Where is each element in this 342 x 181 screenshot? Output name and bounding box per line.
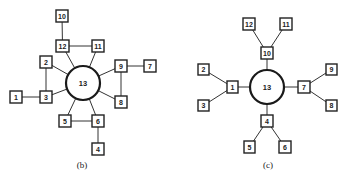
diagram-caption: (c) <box>263 160 273 170</box>
node-label: 8 <box>330 102 334 109</box>
node-label: 3 <box>44 94 48 101</box>
node-label: 11 <box>282 21 290 28</box>
diagram-b: 13101211297138564(b) <box>10 10 156 170</box>
node-7: 7 <box>298 81 310 93</box>
node-5: 5 <box>244 141 255 153</box>
node-label: 1 <box>14 94 18 101</box>
node-6: 6 <box>279 141 291 153</box>
node-label: 6 <box>283 144 287 151</box>
node-10: 10 <box>261 47 273 59</box>
node-label: 7 <box>302 84 306 91</box>
node-label: 12 <box>245 21 253 28</box>
node-8: 8 <box>115 96 127 108</box>
node-11: 11 <box>92 40 104 52</box>
node-label: 9 <box>330 66 334 73</box>
node-label: 2 <box>202 66 206 73</box>
hub-label: 13 <box>263 83 271 92</box>
node-label: 5 <box>248 144 252 151</box>
node-12: 12 <box>243 18 255 30</box>
node-3: 3 <box>198 100 209 111</box>
node-1: 1 <box>227 81 238 93</box>
node-7: 7 <box>144 60 156 72</box>
node-9: 9 <box>326 64 337 75</box>
node-3: 3 <box>40 91 52 103</box>
node-label: 6 <box>96 118 100 125</box>
node-label: 12 <box>59 43 67 50</box>
node-label: 10 <box>58 13 66 20</box>
hub-node: 13 <box>66 66 100 100</box>
node-1: 1 <box>10 91 22 103</box>
node-10: 10 <box>56 10 68 22</box>
node-5: 5 <box>59 115 71 127</box>
node-label: 1 <box>231 84 235 91</box>
hub-label: 13 <box>79 79 87 88</box>
node-9: 9 <box>115 60 127 72</box>
node-label: 4 <box>265 118 269 125</box>
node-4: 4 <box>92 143 104 155</box>
node-2: 2 <box>198 64 209 75</box>
node-11: 11 <box>280 18 292 30</box>
node-label: 9 <box>119 63 123 70</box>
node-6: 6 <box>92 115 104 127</box>
node-label: 11 <box>94 43 102 50</box>
node-label: 5 <box>63 118 67 125</box>
diagram-caption: (b) <box>77 160 88 170</box>
node-8: 8 <box>326 100 337 111</box>
node-label: 7 <box>148 63 152 70</box>
node-label: 2 <box>44 59 48 66</box>
diagram-c: 13121110213798456(c) <box>198 18 337 170</box>
node-label: 8 <box>119 99 123 106</box>
network-diagrams: 13101211297138564(b)13121110213798456(c) <box>0 0 342 181</box>
node-4: 4 <box>261 115 273 127</box>
node-label: 10 <box>263 50 271 57</box>
node-2: 2 <box>40 56 52 68</box>
node-12: 12 <box>56 40 69 52</box>
node-label: 3 <box>202 102 206 109</box>
hub-node: 13 <box>250 70 284 104</box>
node-label: 4 <box>96 146 100 153</box>
